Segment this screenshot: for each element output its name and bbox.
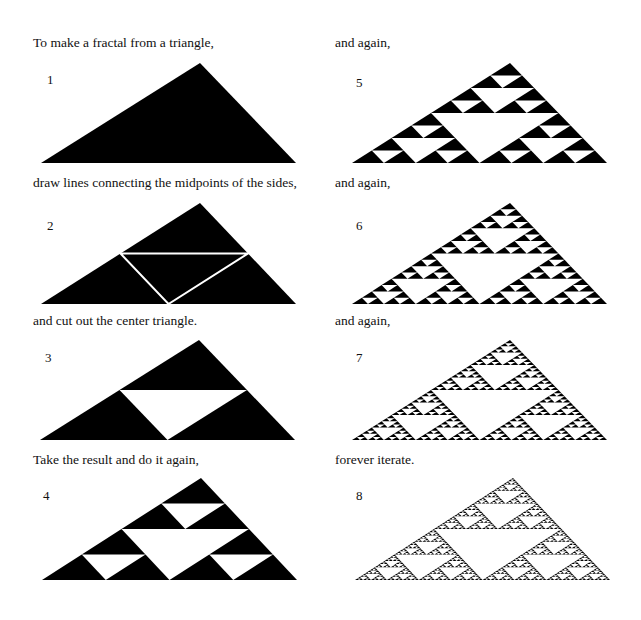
step-number-4: 4 [43,488,50,504]
step-number-5: 5 [356,75,363,91]
caption-step-2: draw lines connecting the midpoints of t… [33,175,318,190]
caption-step-7: and again, [335,313,625,328]
step-number-7: 7 [356,350,363,366]
caption-step-6: and again, [335,175,625,190]
triangle-step-1 [41,63,296,163]
step-number-8: 8 [356,488,363,504]
caption-step-4: Take the result and do it again, [33,452,323,467]
triangle-step-3 [40,340,295,440]
triangle-step-4 [42,478,297,580]
caption-step-5: and again, [335,35,625,50]
caption-step-3: and cut out the center triangle. [33,313,323,328]
caption-step-8: forever iterate. [335,452,625,467]
triangle-step-8 [355,478,610,580]
triangle-step-7 [352,340,607,440]
step-number-2: 2 [47,218,54,234]
triangle-step-5 [352,63,607,163]
triangle-step-6 [352,203,607,304]
triangle-step-2 [41,203,296,304]
step-number-6: 6 [356,218,363,234]
sierpinski-diagram [0,0,641,620]
step-number-1: 1 [47,72,54,88]
caption-step-1: To make a fractal from a triangle, [33,35,323,50]
step-number-3: 3 [45,350,52,366]
